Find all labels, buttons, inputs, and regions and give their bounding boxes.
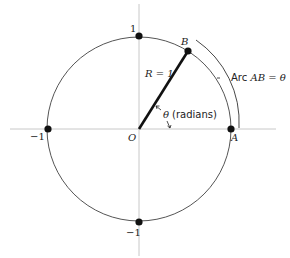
radius-label: R = 1 (144, 68, 174, 79)
angle-unit-label: (radians) (172, 109, 217, 120)
point-b-label: B (180, 36, 188, 47)
tick-label-bottom: −1 (126, 227, 141, 238)
arc-label-math: AB = θ (249, 72, 285, 83)
arc-label-prefix: Arc (231, 72, 250, 83)
point-left (44, 125, 51, 132)
angle-label: θ(radians) (163, 109, 217, 120)
point-bottom (135, 218, 142, 225)
arc-label: Arc AB = θ (231, 72, 286, 83)
point-a-label: A (230, 132, 238, 143)
tick-label-top: 1 (130, 23, 136, 34)
unit-circle-diagram: 1 −1 −1 O A B R = 1 Arc AB = θ θ(radians… (0, 0, 290, 258)
angle-symbol: θ (163, 109, 169, 120)
point-b (184, 47, 191, 54)
tick-label-left: −1 (30, 131, 45, 142)
point-top (135, 32, 142, 39)
center-label-o: O (128, 132, 136, 143)
